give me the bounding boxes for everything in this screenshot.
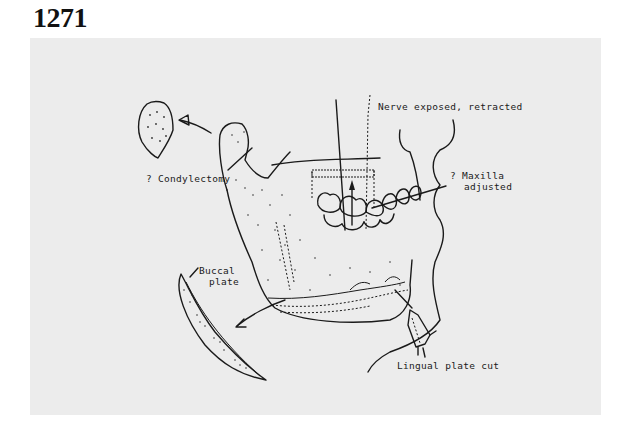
- label-maxilla-line1: ? Maxilla: [450, 170, 504, 181]
- label-nerve: Nerve exposed, retracted: [378, 101, 522, 112]
- condyle-arrow: [179, 115, 211, 133]
- maxilla: [272, 95, 446, 230]
- condyle-fragment: [139, 102, 173, 158]
- label-buccal-line2: plate: [209, 276, 239, 287]
- label-lingual: Lingual plate cut: [397, 360, 499, 371]
- label-maxilla-line2: adjusted: [464, 181, 512, 192]
- mandible-surgery-diagram: ? Condylectomy Nerve exposed, retracted …: [0, 0, 629, 423]
- label-buccal-line1: Buccal: [199, 265, 235, 276]
- lingual-saw: [395, 290, 436, 357]
- label-condylectomy: ? Condylectomy: [146, 173, 230, 184]
